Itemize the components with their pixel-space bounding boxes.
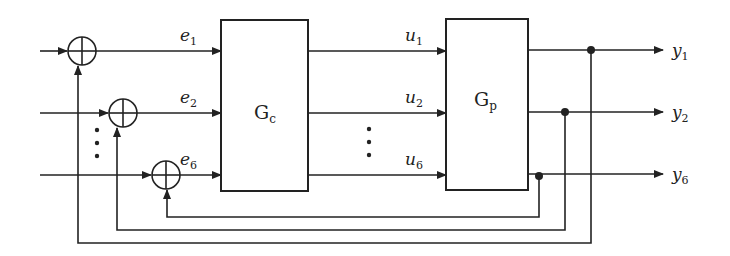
control-label-2: u2 bbox=[405, 87, 423, 110]
summing-junction-1 bbox=[68, 37, 96, 65]
output-label-6: y6 bbox=[671, 164, 689, 187]
error-label-2: e2 bbox=[180, 87, 197, 110]
output-label-2: y2 bbox=[671, 102, 689, 125]
block-diagram: Gc Gp e1 e2 e6 u1 u2 u6 y1 y2 y6 bbox=[0, 0, 730, 256]
error-label-1: e1 bbox=[180, 25, 197, 48]
output-label-1: y1 bbox=[671, 40, 689, 63]
input-ellipsis bbox=[95, 128, 99, 158]
control-label-1: u1 bbox=[405, 25, 423, 48]
control-ellipsis bbox=[367, 127, 371, 157]
control-label-6: u6 bbox=[405, 149, 423, 172]
summing-junction-2 bbox=[109, 99, 137, 127]
summing-junction-6 bbox=[152, 161, 180, 189]
error-label-6: e6 bbox=[180, 149, 197, 172]
